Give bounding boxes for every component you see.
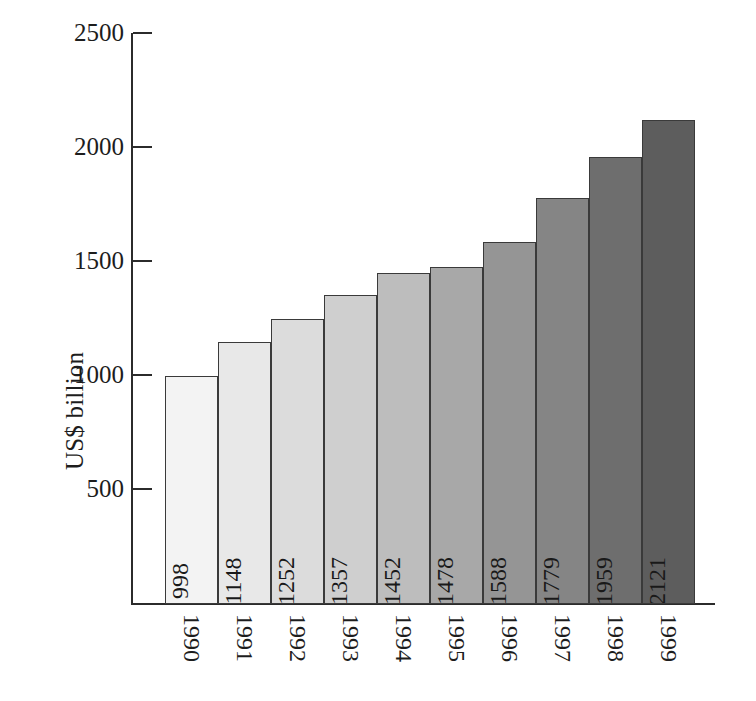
bar-value-label: 1779 <box>539 557 563 604</box>
y-axis-tick <box>133 374 152 376</box>
bar-value-label: 1148 <box>221 557 245 604</box>
x-axis-tick-label: 1996 <box>498 614 522 662</box>
x-axis-tick-label: 1998 <box>604 614 628 662</box>
bar-value-label: 1959 <box>592 557 616 604</box>
y-axis-tick-label: 1000 <box>32 362 124 387</box>
bar-value-label: 2121 <box>645 557 669 604</box>
bar: 998 <box>165 376 218 604</box>
y-axis-tick-label: 1500 <box>32 248 124 273</box>
x-axis-tick-label: 1994 <box>392 614 416 662</box>
bar-chart-figure: US$ billion 2500200015001000500 99811481… <box>0 0 756 701</box>
bar: 1148 <box>218 342 271 604</box>
x-axis-tick-label: 1992 <box>286 614 310 662</box>
y-axis-tick-label-wrap: 1500 <box>20 248 124 274</box>
x-axis-tick-label-cell: 1994 <box>377 606 430 701</box>
x-axis-tick-label: 1997 <box>551 614 575 662</box>
x-axis-tick-label-cell: 1993 <box>324 606 377 701</box>
y-axis-tick-label-wrap: 1000 <box>20 362 124 388</box>
y-axis-tick-label: 2500 <box>32 20 124 45</box>
y-axis-tick-label-wrap: 500 <box>20 476 124 502</box>
y-axis-line <box>131 33 133 605</box>
bar: 1588 <box>483 242 536 604</box>
y-axis-tick-label: 500 <box>32 476 124 501</box>
bar: 1959 <box>589 157 642 604</box>
bar: 1357 <box>324 295 377 604</box>
x-axis-tick-label: 1993 <box>339 614 363 662</box>
plot-area: 998114812521357145214781588177919592121 <box>165 33 695 604</box>
x-axis-tick-label-cell: 1992 <box>271 606 324 701</box>
bar-value-label: 1452 <box>380 557 404 604</box>
x-axis-tick-label-cell: 1996 <box>483 606 536 701</box>
y-axis-tick-label-wrap: 2500 <box>20 20 124 46</box>
bar-value-label: 1588 <box>486 557 510 604</box>
y-axis-tick <box>133 260 152 262</box>
bar-value-label: 998 <box>168 563 192 599</box>
x-axis-tick-label-cell: 1999 <box>642 606 695 701</box>
bar: 2121 <box>642 120 695 604</box>
x-axis-tick-labels: 1990199119921993199419951996199719981999 <box>165 606 695 701</box>
y-axis-tick-label-wrap: 2000 <box>20 134 124 160</box>
bar: 1452 <box>377 273 430 604</box>
y-axis-tick-label: 2000 <box>32 134 124 159</box>
bar-value-label: 1357 <box>327 557 351 604</box>
bar-value-label: 1478 <box>433 557 457 604</box>
bar: 1252 <box>271 319 324 604</box>
x-axis-tick-label: 1999 <box>657 614 681 662</box>
x-axis-tick-label: 1995 <box>445 614 469 662</box>
y-axis-tick <box>133 488 152 490</box>
y-axis-tick <box>133 32 152 34</box>
x-axis-tick-label-cell: 1991 <box>218 606 271 701</box>
bar: 1779 <box>536 198 589 604</box>
x-axis-tick-label: 1991 <box>233 614 257 662</box>
bar-value-label: 1252 <box>274 557 298 604</box>
x-axis-tick-label: 1990 <box>180 614 204 662</box>
bar: 1478 <box>430 267 483 604</box>
x-axis-tick-label-cell: 1997 <box>536 606 589 701</box>
x-axis-tick-label-cell: 1990 <box>165 606 218 701</box>
y-axis-tick <box>133 146 152 148</box>
x-axis-tick-label-cell: 1995 <box>430 606 483 701</box>
x-axis-tick-label-cell: 1998 <box>589 606 642 701</box>
